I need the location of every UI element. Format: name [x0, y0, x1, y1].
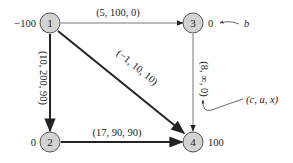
edge-1-2: (10, 200, 90) [37, 34, 50, 131]
supply-node-2: 0 [31, 137, 36, 148]
node-4: 4 [183, 132, 203, 152]
edge-label-1-2: (10, 200, 90) [37, 51, 49, 106]
svg-text:1: 1 [47, 17, 53, 29]
edge-label-1-3: (5, 100, 0) [96, 7, 140, 19]
node-1: 1 [40, 13, 60, 33]
node-2: 2 [40, 132, 60, 152]
supply-node-3: 0 [208, 18, 213, 29]
supply-node-4: 100 [208, 137, 224, 148]
edge-label-3-4: (8, ∞, 0) [198, 61, 210, 97]
edge-1-4: (−1, 10, 10) [58, 31, 184, 133]
supply-node-1: −100 [14, 18, 36, 29]
svg-text:3: 3 [190, 17, 196, 29]
svg-text:4: 4 [190, 136, 196, 148]
annotation-cux: (c, u, x) [203, 94, 279, 111]
edge-2-4: (17, 90, 90) [61, 127, 182, 142]
annotation-b-label: b [244, 18, 249, 29]
edge-1-3: (5, 100, 0) [61, 7, 183, 23]
annotation-cux-label: (c, u, x) [246, 94, 279, 106]
annotation-b: b [220, 18, 249, 29]
network-flow-diagram: (5, 100, 0) (10, 200, 90) (−1, 10, 10) (… [0, 0, 293, 163]
edge-3-4: (8, ∞, 0) [193, 34, 210, 131]
svg-text:2: 2 [47, 136, 53, 148]
node-3: 3 [183, 13, 203, 33]
edge-label-2-4: (17, 90, 90) [93, 127, 142, 139]
